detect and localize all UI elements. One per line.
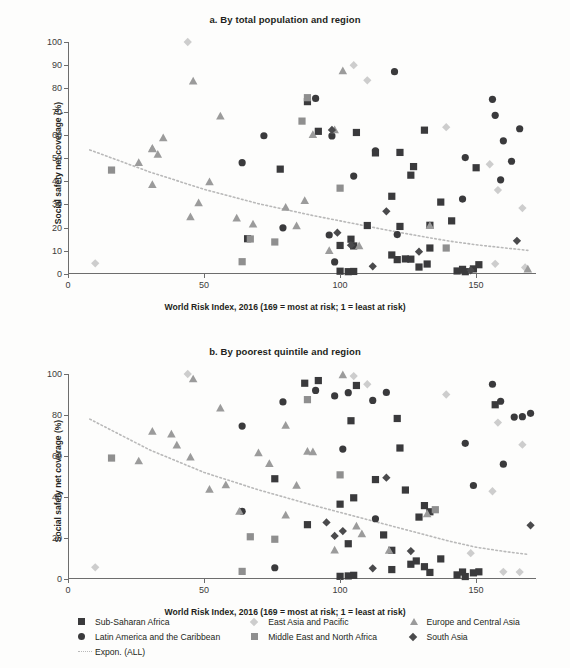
legend-item-south-asia[interactable]: South Asia	[410, 632, 558, 642]
data-point	[372, 147, 379, 154]
data-point	[292, 221, 301, 229]
data-point	[134, 158, 143, 166]
data-point	[322, 518, 330, 526]
data-point	[184, 370, 192, 378]
data-point	[281, 203, 290, 211]
x-tick	[340, 579, 341, 583]
legend-label: Sub-Saharan Africa	[95, 617, 170, 627]
legend-row-1: Sub-Saharan Africa East Asia and Pacific…	[78, 614, 558, 629]
legend-item-middle-east-and-north-africa[interactable]: Middle East and North Africa	[251, 632, 409, 642]
legend-item-expon-all[interactable]: Expon. (ALL)	[78, 647, 253, 657]
data-point	[281, 421, 290, 429]
data-point	[494, 186, 502, 194]
diamond-marker-icon	[410, 634, 422, 640]
data-point	[462, 573, 469, 580]
y-tick	[64, 456, 68, 457]
data-point	[363, 380, 371, 388]
data-point	[301, 380, 308, 387]
data-point	[394, 256, 401, 263]
y-tick-label: 20	[52, 223, 62, 233]
data-point	[382, 474, 390, 482]
data-point	[350, 372, 358, 380]
data-point	[407, 256, 414, 263]
data-point	[432, 506, 439, 513]
data-point	[315, 128, 322, 135]
data-point	[410, 163, 417, 170]
data-point	[325, 246, 334, 254]
data-point	[148, 427, 157, 435]
legend-item-latin-america-and-the-caribbean[interactable]: Latin America and the Caribbean	[78, 632, 251, 642]
data-point	[396, 149, 403, 156]
data-point	[326, 231, 333, 238]
data-point	[350, 172, 357, 179]
legend-item-europe-and-central-asia[interactable]: Europe and Central Asia	[410, 617, 558, 627]
square-marker-icon	[251, 633, 263, 640]
y-tick	[64, 538, 68, 539]
data-point	[304, 396, 311, 403]
data-point	[205, 177, 214, 185]
data-point	[497, 176, 504, 183]
data-point	[475, 568, 482, 575]
data-point	[312, 387, 319, 394]
y-tick	[64, 415, 68, 416]
data-point	[470, 482, 477, 489]
y-tick	[64, 88, 68, 89]
data-point	[437, 555, 444, 562]
legend-item-sub-saharan-africa[interactable]: Sub-Saharan Africa	[78, 617, 251, 627]
data-point	[303, 447, 312, 455]
data-point	[421, 502, 428, 509]
data-point	[500, 461, 507, 468]
data-point	[486, 160, 494, 168]
data-point	[394, 415, 401, 422]
y-tick	[64, 135, 68, 136]
data-point	[421, 127, 428, 134]
data-point	[402, 486, 409, 493]
data-point	[184, 38, 192, 46]
data-point	[239, 258, 246, 265]
data-point	[467, 549, 475, 557]
data-point	[347, 417, 354, 424]
x-tick	[204, 579, 205, 583]
y-tick-label: 0	[57, 574, 62, 584]
x-tick-label: 150	[469, 585, 484, 595]
data-point	[492, 112, 499, 119]
y-tick-label: 20	[52, 533, 62, 543]
series-south-asia	[322, 474, 534, 573]
data-point	[232, 214, 241, 222]
y-tick	[64, 374, 68, 375]
legend-item-east-asia-and-pacific[interactable]: East Asia and Pacific	[251, 617, 409, 627]
y-tick-label: 80	[52, 83, 62, 93]
data-point	[247, 533, 254, 540]
chart-panel-b: b. By poorest quintile and region Social…	[0, 332, 570, 604]
data-point	[437, 198, 444, 205]
chart-page: a. By total population and region Social…	[0, 0, 570, 668]
data-point	[396, 444, 403, 451]
data-point	[189, 375, 198, 383]
data-point	[462, 440, 469, 447]
data-point	[239, 159, 246, 166]
y-tick-label: 30	[52, 199, 62, 209]
diamond-marker-icon	[251, 619, 263, 625]
x-tick-label: 100	[333, 280, 348, 290]
y-tick	[64, 42, 68, 43]
data-point	[336, 471, 343, 478]
data-point	[331, 392, 338, 399]
panel-a-plot-area: 0102030405060708090100050100150	[68, 42, 536, 274]
y-tick	[64, 228, 68, 229]
data-point	[500, 137, 507, 144]
data-point	[189, 77, 198, 85]
legend-label: Expon. (ALL)	[95, 647, 145, 657]
series-south-asia	[328, 126, 521, 275]
y-tick	[64, 181, 68, 182]
data-point	[312, 95, 319, 102]
data-point	[380, 531, 387, 538]
data-point	[413, 557, 420, 564]
y-tick-label: 50	[52, 153, 62, 163]
data-point	[518, 441, 526, 449]
panel-a-scatter-layer	[68, 42, 536, 274]
data-point	[339, 371, 348, 379]
x-tick-label: 100	[333, 585, 348, 595]
data-point	[388, 193, 395, 200]
series-middle-east-and-north-africa	[108, 94, 450, 265]
data-point	[489, 96, 496, 103]
